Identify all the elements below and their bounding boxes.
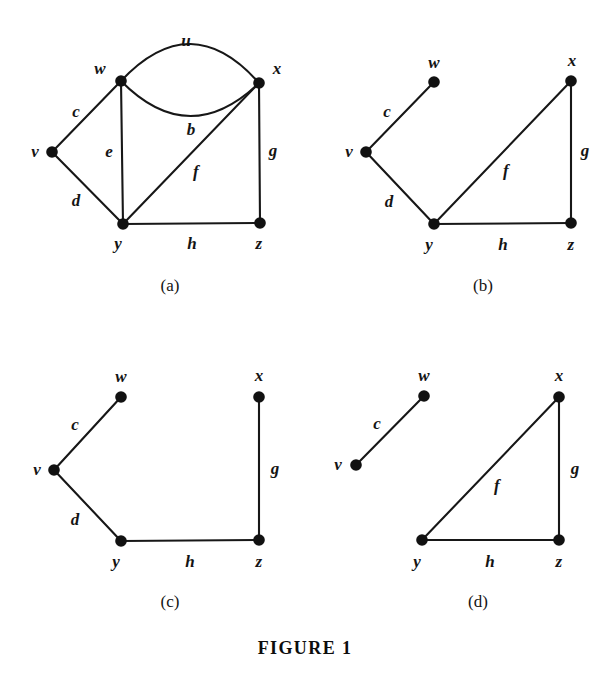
panel-caption-panel-d: (d): [468, 592, 488, 612]
edge-label-h: h: [187, 235, 197, 252]
vertex-y: [117, 218, 129, 230]
edge-label-g: g: [581, 142, 590, 159]
vertex-z: [253, 534, 265, 546]
vertex-label-v: v: [33, 461, 41, 478]
panel-caption-panel-c: (c): [161, 592, 180, 612]
edge-e: [121, 81, 123, 224]
vertex-label-v: v: [345, 143, 353, 160]
vertex-z: [553, 534, 565, 546]
vertex-label-z: z: [256, 235, 263, 252]
edge-label-b: b: [187, 121, 196, 138]
panel-c: [48, 391, 265, 547]
figure-caption: FIGURE 1: [258, 638, 353, 659]
edge-label-d: d: [71, 511, 80, 528]
vertex-v: [350, 459, 362, 471]
edge-d: [52, 152, 123, 224]
edge-d: [54, 470, 121, 541]
vertex-y: [416, 534, 428, 546]
edge-label-g: g: [269, 142, 278, 159]
edge-label-c: c: [71, 416, 79, 433]
edge-label-g: g: [271, 460, 280, 477]
vertex-y: [115, 535, 127, 547]
panel-caption-panel-a: (a): [161, 276, 180, 296]
vertex-z: [254, 217, 266, 229]
vertex-label-x: x: [273, 60, 282, 77]
vertex-x: [253, 77, 265, 89]
edge-h: [123, 223, 260, 224]
vertex-w: [418, 390, 430, 402]
vertex-label-y: y: [112, 553, 120, 570]
vertex-label-z: z: [568, 236, 575, 253]
vertex-label-v: v: [31, 143, 39, 160]
vertex-label-w: w: [94, 60, 106, 77]
edge-f: [123, 83, 259, 224]
edge-label-c: c: [72, 103, 80, 120]
edge-g: [259, 83, 260, 223]
edge-b: [121, 81, 259, 116]
vertex-v: [46, 146, 58, 158]
edge-f: [422, 397, 559, 540]
vertex-x: [565, 75, 577, 87]
edge-c: [356, 396, 424, 465]
vertex-label-y: y: [425, 236, 433, 253]
edge-label-d: d: [385, 193, 394, 210]
edge-label-d: d: [72, 192, 81, 209]
vertex-label-x: x: [255, 367, 264, 384]
edge-f: [434, 81, 571, 224]
edge-label-c: c: [383, 103, 391, 120]
vertex-label-y: y: [413, 553, 421, 570]
edge-label-h: h: [498, 236, 508, 253]
vertex-w: [115, 391, 127, 403]
edge-u: [121, 44, 259, 83]
edge-label-f: f: [494, 477, 500, 494]
edge-label-f: f: [193, 163, 199, 180]
vertex-label-z: z: [256, 553, 263, 570]
vertex-w: [428, 76, 440, 88]
vertex-w: [115, 75, 127, 87]
vertex-label-x: x: [568, 52, 577, 69]
edge-label-f: f: [503, 162, 509, 179]
vertex-label-z: z: [556, 553, 563, 570]
vertex-x: [553, 391, 565, 403]
graph-canvas: [0, 0, 610, 676]
vertex-y: [428, 218, 440, 230]
edge-label-e: e: [105, 143, 113, 160]
vertex-label-w: w: [418, 367, 430, 384]
edge-h: [121, 540, 259, 541]
vertex-z: [565, 217, 577, 229]
vertex-label-w: w: [115, 368, 127, 385]
edge-label-c: c: [373, 415, 381, 432]
vertex-label-w: w: [428, 54, 440, 71]
edge-h: [434, 223, 571, 224]
vertex-x: [253, 391, 265, 403]
edge-c: [366, 82, 434, 152]
edge-label-h: h: [485, 553, 495, 570]
vertex-v: [360, 146, 372, 158]
edge-d: [366, 152, 434, 224]
figure-container: vwxyzubcdefgh(a)vwxyzcdfgh(b)vwxyzcdgh(c…: [0, 0, 610, 676]
edge-c: [54, 397, 121, 470]
vertex-label-v: v: [334, 456, 342, 473]
panel-caption-panel-b: (b): [473, 276, 493, 296]
vertex-v: [48, 464, 60, 476]
vertex-label-x: x: [555, 367, 564, 384]
panel-d: [350, 390, 565, 546]
edge-label-h: h: [185, 553, 195, 570]
edge-label-g: g: [571, 460, 580, 477]
vertex-label-y: y: [114, 235, 122, 252]
edge-label-u: u: [181, 32, 191, 49]
